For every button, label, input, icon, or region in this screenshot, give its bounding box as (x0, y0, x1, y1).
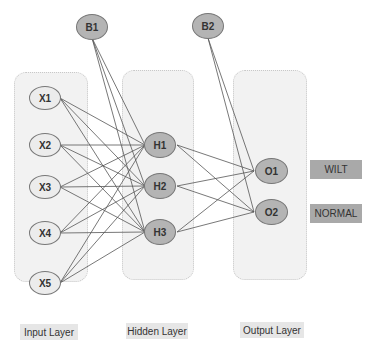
output-layer-label: Output Layer (240, 322, 304, 338)
hidden-node-h2: H2 (144, 173, 176, 199)
output-node-o2: O2 (255, 199, 288, 225)
input-node-x4: X4 (29, 221, 61, 245)
input-node-x2: X2 (29, 133, 61, 157)
input-node-x1: X1 (29, 86, 61, 110)
class-label-wilt: WILT (310, 160, 362, 179)
bias-node-b1: B1 (76, 14, 108, 40)
input-layer-label: Input Layer (20, 324, 78, 340)
hidden-layer-label: Hidden Layer (126, 323, 188, 339)
output-node-o1: O1 (255, 158, 288, 184)
hidden-node-h3: H3 (144, 219, 176, 245)
class-label-normal: NORMAL (310, 204, 362, 223)
input-node-x5: X5 (29, 271, 61, 295)
bias-node-b2: B2 (192, 13, 224, 39)
input-node-x3: X3 (29, 175, 61, 199)
hidden-node-h1: H1 (144, 132, 176, 158)
